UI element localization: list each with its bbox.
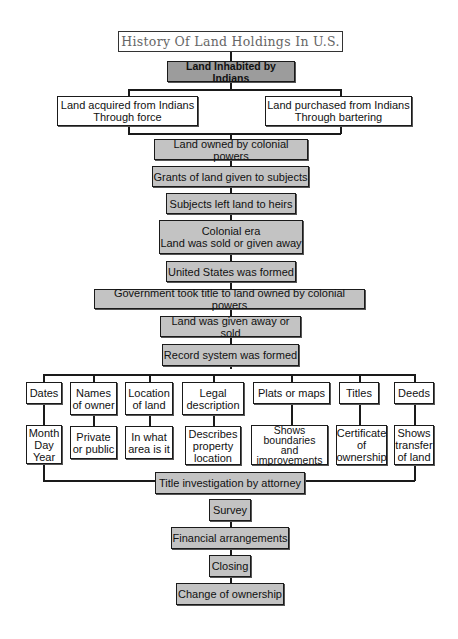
record-label-names: Names of owner xyxy=(70,382,117,415)
record-label-plats: Plats or maps xyxy=(253,382,330,404)
node-title-investigation: Title investigation by attorney xyxy=(155,472,305,494)
node-grants: Grants of land given to subjects xyxy=(152,166,309,187)
record-detail-deeds: Shows transfer of land xyxy=(394,425,434,465)
record-label-deeds: Deeds xyxy=(394,382,434,404)
record-detail-titles: Certificate of ownership xyxy=(336,425,387,465)
connector xyxy=(93,374,95,382)
node-given-or-sold: Land was given away or sold xyxy=(160,316,301,337)
node-financial: Financial arrangements xyxy=(171,527,289,549)
record-detail-plats: Shows boundaries and improvements xyxy=(251,425,328,465)
record-detail-dates: Month Day Year xyxy=(26,425,62,464)
node-us-formed: United States was formed xyxy=(166,261,296,282)
connector xyxy=(128,133,341,135)
connector xyxy=(149,374,151,382)
node-change-of-ownership: Change of ownership xyxy=(176,583,284,605)
node-closing: Closing xyxy=(209,555,251,577)
record-label-titles: Titles xyxy=(339,382,379,404)
node-government-title: Government took title to land owned by c… xyxy=(94,289,365,309)
node-acquired-by-force: Land acquired from Indians Through force xyxy=(57,96,198,126)
record-label-dates: Dates xyxy=(26,382,62,404)
connector xyxy=(359,404,361,426)
connector xyxy=(128,89,341,91)
connector xyxy=(291,404,293,426)
diagram-title: History Of Land Holdings In U.S. xyxy=(118,31,343,52)
connector xyxy=(414,404,416,426)
record-label-location: Location of land xyxy=(125,382,173,415)
node-record-system: Record system was formed xyxy=(162,344,299,366)
connector xyxy=(359,374,361,382)
record-label-legal: Legal description xyxy=(182,382,244,415)
record-detail-location: In what area is it xyxy=(125,426,173,459)
connector xyxy=(414,374,416,382)
connector xyxy=(43,464,45,481)
node-colonial-powers: Land owned by colonial powers xyxy=(154,139,308,160)
connector xyxy=(291,374,293,382)
node-land-inhabited: Land Inhabited by Indians xyxy=(167,61,295,82)
connector xyxy=(213,374,215,382)
connector xyxy=(414,464,416,481)
record-detail-legal: Describes property location xyxy=(185,426,241,465)
record-detail-names: Private or public xyxy=(70,426,117,459)
node-heirs: Subjects left land to heirs xyxy=(166,193,296,214)
node-survey: Survey xyxy=(209,499,251,521)
node-purchased-bartering: Land purchased from Indians Through bart… xyxy=(265,96,412,126)
node-colonial-era: Colonial era Land was sold or given away xyxy=(159,220,303,254)
connector xyxy=(43,374,45,382)
connector xyxy=(43,404,45,426)
